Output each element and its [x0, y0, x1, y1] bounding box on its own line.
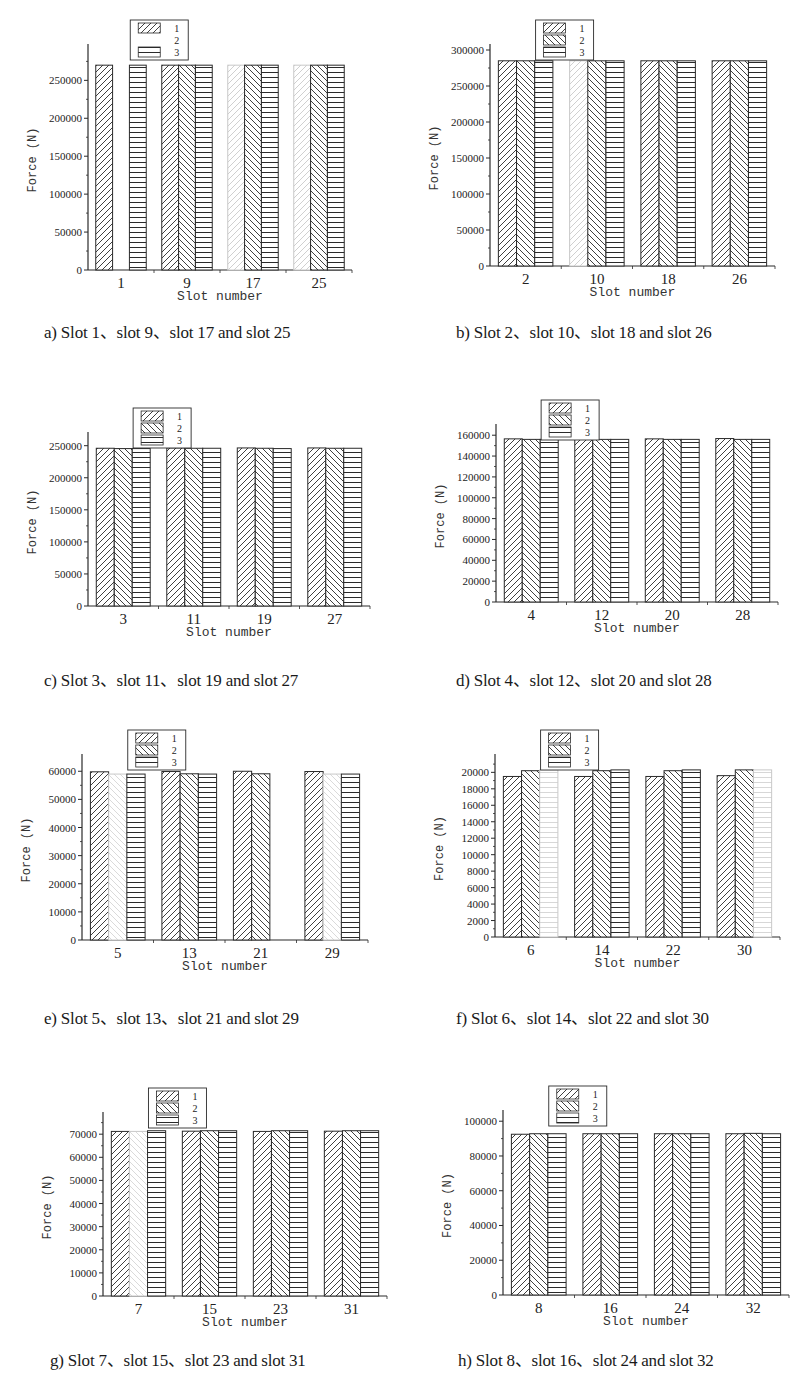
- bar-series-2-slot-32: [744, 1133, 762, 1295]
- bar-series-2-slot-16: [601, 1134, 619, 1295]
- chart-svg: 020000400006000080000100000Force (N)8162…: [0, 0, 811, 1396]
- bar-series-3-slot-8: [548, 1134, 566, 1295]
- bar-series-3-slot-24: [691, 1134, 709, 1295]
- y-tick-label: 80000: [470, 1150, 498, 1162]
- y-axis-label: Force (N): [441, 1173, 455, 1238]
- x-axis-label: Slot number: [603, 1314, 689, 1329]
- legend-label-3: 3: [593, 1113, 598, 1124]
- y-tick-label: 100000: [464, 1115, 498, 1127]
- bar-series-1-slot-24: [654, 1134, 672, 1295]
- y-tick-label: 60000: [470, 1185, 498, 1197]
- legend-swatch-1: [557, 1089, 579, 1099]
- y-tick-label: 40000: [470, 1219, 498, 1231]
- bar-series-2-slot-24: [673, 1134, 691, 1295]
- caption-h: h) Slot 8、slot 16、slot 24 and slot 32: [458, 1346, 714, 1371]
- y-tick-label: 0: [492, 1289, 498, 1301]
- chart-panel-h: 020000400006000080000100000Force (N)8162…: [0, 0, 811, 1396]
- bar-series-3-slot-16: [619, 1134, 637, 1295]
- bar-series-1-slot-16: [583, 1134, 601, 1295]
- bar-series-2-slot-8: [530, 1134, 548, 1295]
- y-tick-label: 20000: [470, 1254, 498, 1266]
- x-tick-label: 32: [746, 1300, 761, 1316]
- legend-swatch-3: [557, 1113, 579, 1123]
- bar-series-1-slot-32: [726, 1134, 744, 1295]
- x-tick-label: 8: [535, 1300, 543, 1316]
- bar-series-3-slot-32: [762, 1134, 780, 1295]
- legend-swatch-2: [557, 1101, 579, 1111]
- legend-label-2: 2: [593, 1101, 598, 1112]
- bar-series-1-slot-8: [511, 1134, 529, 1295]
- legend-label-1: 1: [593, 1089, 598, 1100]
